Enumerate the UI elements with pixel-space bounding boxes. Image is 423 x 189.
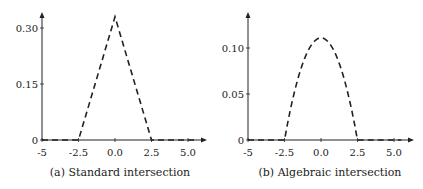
x-tick-label: 0.0	[313, 147, 329, 158]
y-tick-label: 0.15	[16, 79, 38, 90]
y-axis-arrow	[40, 12, 45, 18]
series-line-standard	[42, 17, 195, 140]
y-axis-arrow	[246, 12, 251, 18]
x-tick-label: -2.5	[275, 147, 294, 158]
y-tick-label: 0	[32, 135, 38, 146]
y-tick-label: 0.30	[16, 23, 38, 34]
x-tick-label: 2.5	[144, 147, 160, 158]
chart-panel-b: -5-2.50.02.55.000.050.10(b) Algebraic in…	[222, 12, 414, 179]
caption: (a) Standard intersection	[50, 166, 190, 179]
figure: -5-2.50.02.55.000.150.30(a) Standard int…	[0, 0, 423, 189]
y-tick-label: 0.10	[222, 43, 244, 54]
chart-panel-a: -5-2.50.02.55.000.150.30(a) Standard int…	[16, 12, 207, 179]
x-axis-arrow	[201, 138, 207, 143]
series-line-algebraic	[248, 38, 401, 140]
y-tick-label: 0	[238, 135, 244, 146]
x-tick-label: 2.5	[350, 147, 366, 158]
x-tick-label: -5	[243, 147, 253, 158]
x-axis-arrow	[408, 138, 414, 143]
x-tick-label: -5	[37, 147, 47, 158]
x-tick-label: 0.0	[107, 147, 123, 158]
x-tick-label: 5.0	[386, 147, 402, 158]
y-tick-label: 0.05	[222, 89, 244, 100]
x-tick-label: -2.5	[69, 147, 88, 158]
x-tick-label: 5.0	[180, 147, 196, 158]
caption: (b) Algebraic intersection	[259, 166, 402, 179]
